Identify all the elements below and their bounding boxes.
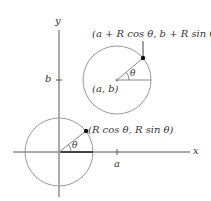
origin-angle-arc [69, 145, 72, 152]
parametric-circle-diagram: y x a b (R cos θ, R sin θ) θ (a, b) (a +… [0, 0, 211, 201]
shifted-point-label: (a + R cos θ, b + R sin θ) [92, 29, 211, 39]
origin-point-label: (R cos θ, R sin θ) [88, 125, 174, 135]
origin-center-dot [57, 150, 60, 153]
shifted-center-dot [115, 78, 118, 81]
y-tick-label-b: b [45, 74, 51, 84]
shifted-angle-label: θ [130, 69, 135, 78]
shifted-center-label: (a, b) [92, 84, 119, 94]
x-tick-label-a: a [114, 159, 120, 169]
origin-angle-label: θ [72, 141, 77, 150]
shifted-angle-arc [126, 72, 129, 80]
x-axis-label: x [193, 146, 199, 156]
shifted-point [141, 56, 145, 60]
y-axis-label: y [55, 16, 61, 26]
